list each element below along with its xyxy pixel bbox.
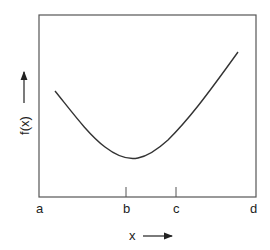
- label-c: c: [173, 202, 180, 215]
- label-a: a: [36, 202, 43, 215]
- y-axis-label: f(x): [17, 114, 32, 138]
- x-axis-label: x: [129, 229, 136, 242]
- function-curve: [55, 52, 238, 159]
- plot-frame: [39, 15, 256, 197]
- label-b: b: [123, 202, 130, 215]
- label-d: d: [250, 202, 257, 215]
